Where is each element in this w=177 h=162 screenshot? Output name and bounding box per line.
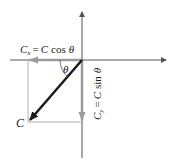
y-component-label: Cy=Csinθ [91, 67, 105, 120]
vector-label: C [16, 116, 25, 130]
vector-diagram: θ C Cx=Ccosθ Cy=Csinθ [0, 0, 177, 162]
vector-c-arrow [30, 60, 82, 120]
angle-label: θ [63, 63, 69, 75]
x-component-label: Cx=Ccosθ [20, 43, 75, 57]
